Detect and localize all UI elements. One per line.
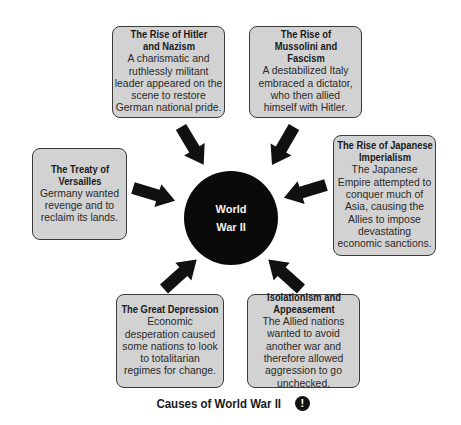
center-label-line1: World [216, 200, 247, 218]
cause-title: The Rise of Mussolini and Fascism [270, 29, 340, 65]
cause-title: Isolationism and Appeasement [260, 292, 346, 316]
arrow-from-versailles [129, 177, 178, 213]
cause-title: The Great Depression [121, 304, 220, 316]
cause-box-hitler: The Rise of Hitler and Nazism A charisma… [112, 26, 225, 118]
cause-title: The Rise of Japanese Imperialism [334, 140, 435, 164]
diagram-caption: Causes of World War II ! [0, 396, 461, 411]
alert-icon[interactable]: ! [295, 396, 310, 411]
cause-title: The Rise of Hitler and Nazism [128, 29, 209, 53]
cause-title: The Treaty of Versailles [44, 164, 116, 188]
cause-description: Economic desperation caused some nations… [121, 316, 219, 377]
arrow-from-hitler [171, 121, 214, 171]
world-war-ii-circle: World War II [184, 171, 278, 265]
arrow-from-depression [156, 251, 205, 298]
center-label-line2: War II [216, 218, 246, 236]
cause-box-japanese: The Rise of Japanese Imperialism The Jap… [333, 135, 436, 256]
cause-box-depression: The Great Depression Economic desperatio… [116, 294, 224, 388]
cause-box-mussolini: The Rise of Mussolini and Fascism A dest… [249, 26, 362, 118]
cause-description: The Allied nations wanted to avoid anoth… [251, 316, 357, 390]
caption-text: Causes of World War II [157, 397, 282, 411]
cause-description: A destabilized Italy embraced a dictator… [256, 65, 356, 114]
cause-description: Germany wanted revenge and to reclaim it… [36, 188, 124, 225]
cause-box-isolationism: Isolationism and Appeasement The Allied … [247, 294, 360, 388]
cause-description: A charismatic and ruthlessly militant le… [115, 53, 223, 114]
arrow-from-isolationism [260, 251, 309, 298]
arrow-from-mussolini [262, 121, 305, 171]
cause-description: The Japanese Empire attempted to conquer… [337, 164, 433, 250]
cause-box-versailles: The Treaty of Versailles Germany wanted … [32, 148, 127, 240]
arrow-from-japanese [280, 174, 329, 210]
